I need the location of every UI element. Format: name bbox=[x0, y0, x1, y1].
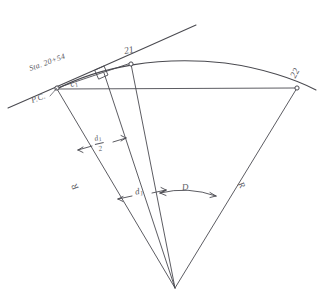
curve-diagram-canvas: Sta. 20+54 P.C. 21 22 c1 d1 2 d1 D R R bbox=[0, 0, 327, 302]
long-chord-pc-22 bbox=[57, 88, 297, 89]
curve-diagram-svg bbox=[0, 0, 327, 302]
deflection-d1-label: d1 bbox=[134, 185, 144, 197]
half-deflection-denominator: 2 bbox=[95, 144, 105, 153]
radius-to-22 bbox=[175, 88, 297, 288]
chord-c1 bbox=[57, 63, 131, 88]
point-21-label: 21 bbox=[123, 44, 135, 56]
central-angle-label: D bbox=[181, 182, 189, 193]
node-dot-22 bbox=[295, 86, 299, 90]
node-dot-21 bbox=[129, 62, 133, 66]
